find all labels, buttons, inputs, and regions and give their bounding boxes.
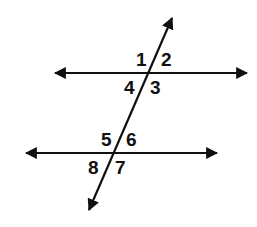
angle-label-7: 7 (115, 157, 126, 178)
angle-label-2: 2 (161, 49, 172, 70)
parallel-lines-transversal-diagram: 1 2 4 3 5 6 8 7 (0, 0, 257, 227)
angle-label-8: 8 (88, 157, 99, 178)
angle-label-1: 1 (136, 49, 147, 70)
angle-label-5: 5 (101, 129, 112, 150)
transversal-line (89, 18, 172, 210)
angle-label-4: 4 (124, 77, 135, 98)
angle-label-6: 6 (126, 129, 137, 150)
angle-label-3: 3 (150, 77, 161, 98)
